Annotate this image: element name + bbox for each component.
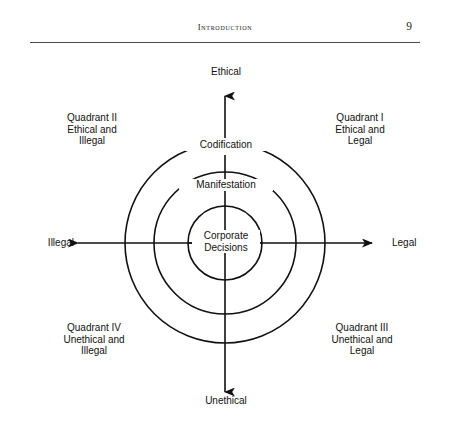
ring-label-manifestation: Manifestation xyxy=(179,179,273,191)
ring-label-corporate-decisions: Corporate Decisions xyxy=(192,230,260,253)
page-number: 9 xyxy=(406,20,412,32)
quadrant-label-3: Quadrant III Unethical and Legal xyxy=(310,322,414,357)
cut-off-body-text xyxy=(30,420,422,430)
axis-label-legal: Legal xyxy=(392,237,436,248)
ring-label-codification: Codification xyxy=(185,139,267,151)
quadrant-label-4: Quadrant IV Unethical and Illegal xyxy=(42,322,146,357)
axis-label-ethical: Ethical xyxy=(198,66,254,77)
axis-label-illegal: Illegal xyxy=(28,237,74,248)
axis-label-unethical: Unethical xyxy=(192,395,260,406)
ethics-quadrant-diagram: Codification Manifestation Corporate Dec… xyxy=(0,50,450,410)
quadrant-label-2: Quadrant II Ethical and Illegal xyxy=(44,112,140,147)
running-head-title: Introduction xyxy=(30,22,420,32)
header-divider-rule xyxy=(30,42,420,43)
page-header: Introduction 9 xyxy=(30,22,420,44)
quadrant-label-1: Quadrant I Ethical and Legal xyxy=(312,112,408,147)
